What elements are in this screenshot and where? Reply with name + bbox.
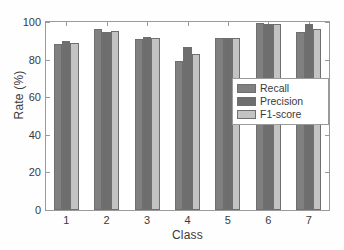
y-axis-tick-mark <box>46 22 50 23</box>
x-axis-tick-mark <box>228 22 229 26</box>
y-axis-tick-label: 20 <box>29 166 41 178</box>
bar-precision-class-1 <box>62 41 70 210</box>
legend-item-recall[interactable]: Recall <box>237 82 324 94</box>
y-axis-tick-label: 40 <box>29 129 41 141</box>
bar-precision-class-2 <box>102 32 110 210</box>
x-axis-tick-label: 6 <box>265 214 271 226</box>
x-axis-tick-label: 4 <box>184 214 190 226</box>
y-axis-label: Rate (%) <box>12 40 26 150</box>
legend-label: F1-score <box>260 109 301 120</box>
x-axis-tick-mark <box>188 22 189 26</box>
x-axis-tick-mark <box>147 22 148 26</box>
bar-f1-score-class-3 <box>151 38 159 210</box>
x-axis-tick-label: 2 <box>104 214 110 226</box>
y-axis-tick-label: 0 <box>35 204 41 216</box>
y-axis-tick-mark <box>46 97 50 98</box>
x-axis-tick-label: 5 <box>225 214 231 226</box>
y-axis-tick-mark <box>325 210 329 211</box>
y-axis-tick-mark <box>46 60 50 61</box>
legend-label: Precision <box>260 96 303 107</box>
y-axis-tick-mark <box>325 135 329 136</box>
legend-swatch-icon <box>237 97 256 106</box>
bar-recall-class-1 <box>54 44 62 210</box>
legend-item-f1-score[interactable]: F1-score <box>237 108 324 120</box>
bar-f1-score-class-4 <box>192 54 200 210</box>
legend-label: Recall <box>260 83 289 94</box>
x-axis-label: Class <box>45 228 330 242</box>
y-axis-tick-label: 60 <box>29 91 41 103</box>
y-axis-tick-mark <box>325 22 329 23</box>
legend-item-precision[interactable]: Precision <box>237 95 324 107</box>
y-axis-tick-mark <box>46 172 50 173</box>
x-axis-tick-mark <box>107 22 108 26</box>
bar-recall-class-2 <box>94 29 102 210</box>
y-axis-tick-label: 100 <box>23 16 41 28</box>
bar-f1-score-class-1 <box>70 43 78 211</box>
y-axis-tick-mark <box>46 210 50 211</box>
bar-chart-figure: Rate (%) Class 0204060801001234567 Recal… <box>0 0 344 250</box>
bar-recall-class-3 <box>135 39 143 210</box>
y-axis-tick-mark <box>325 172 329 173</box>
bar-precision-class-5 <box>224 38 232 210</box>
bar-precision-class-3 <box>143 37 151 210</box>
bar-precision-class-4 <box>183 47 191 210</box>
bar-f1-score-class-2 <box>111 31 119 210</box>
y-axis-tick-mark <box>46 135 50 136</box>
bar-recall-class-5 <box>215 38 223 210</box>
x-axis-tick-mark <box>66 22 67 26</box>
chart-legend: RecallPrecisionF1-score <box>232 78 329 125</box>
y-axis-tick-mark <box>325 60 329 61</box>
bar-recall-class-4 <box>175 61 183 210</box>
legend-swatch-icon <box>237 110 256 119</box>
y-axis-tick-label: 80 <box>29 54 41 66</box>
x-axis-tick-label: 1 <box>63 214 69 226</box>
legend-swatch-icon <box>237 84 256 93</box>
x-axis-tick-label: 3 <box>144 214 150 226</box>
x-axis-tick-label: 7 <box>306 214 312 226</box>
